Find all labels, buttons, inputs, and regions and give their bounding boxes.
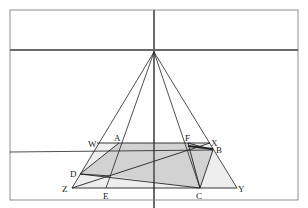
label-y: Y [238, 184, 245, 194]
label-c: C [196, 191, 202, 201]
label-w: W [88, 139, 97, 149]
perspective-diagram: W A F X B D Z E C Y [0, 0, 308, 208]
label-d: D [70, 169, 77, 179]
label-e: E [103, 191, 109, 201]
label-f: F [185, 133, 190, 143]
label-a: A [114, 133, 121, 143]
label-b: B [216, 145, 222, 155]
label-z: Z [62, 184, 68, 194]
